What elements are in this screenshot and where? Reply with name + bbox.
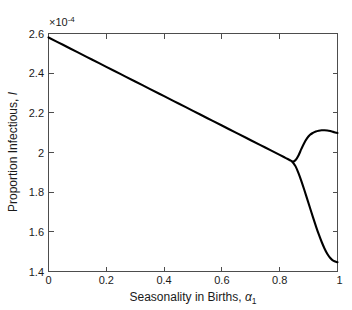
exponent-power: -4 <box>68 15 76 24</box>
x-tick-labels: 0 0.2 0.4 0.6 0.8 1 <box>45 274 342 286</box>
infectious-symbol: I <box>6 91 20 95</box>
y-tick-labels: 1.4 1.6 1.8 2 2.2 2.4 2.6 <box>29 28 44 278</box>
y-tick-label: 2.4 <box>29 67 44 79</box>
x-tick-label: 1 <box>336 274 342 286</box>
plot-canvas: 0 0.2 0.4 0.6 0.8 1 1.4 1.6 1.8 2 2.2 2.… <box>0 0 352 310</box>
svg-text:×10-4: ×10-4 <box>49 15 75 28</box>
x-tick-label: 0.8 <box>272 274 287 286</box>
x-tick-label: 0.2 <box>99 274 114 286</box>
y-axis-title-text: Proportion Infectious, <box>6 95 20 212</box>
y-tick-label: 1.4 <box>29 266 44 278</box>
y-tick-label: 2.6 <box>29 28 44 40</box>
y-tick-label: 2 <box>38 147 44 159</box>
alpha-subscript: 1 <box>252 296 257 306</box>
bifurcation-diagram-figure: 0 0.2 0.4 0.6 0.8 1 1.4 1.6 1.8 2 2.2 2.… <box>0 0 352 310</box>
data-curves-group <box>49 37 338 262</box>
y-tick-label: 1.6 <box>29 226 44 238</box>
y-axis-ticks <box>49 34 338 272</box>
y-axis-exponent-label: ×10-4 <box>49 15 75 28</box>
svg-text:Proportion Infectious, I: Proportion Infectious, I <box>6 91 20 212</box>
y-tick-label: 2.2 <box>29 107 44 119</box>
y-axis-title: Proportion Infectious, I <box>6 91 20 212</box>
y-tick-label: 1.8 <box>29 186 44 198</box>
x-axis-title: Seasonality in Births, α1 <box>130 290 257 306</box>
x-axis-ticks <box>49 34 338 272</box>
x-tick-label: 0.6 <box>214 274 229 286</box>
axis-frame <box>49 34 338 272</box>
x-tick-label: 0.4 <box>156 274 171 286</box>
exponent-mantissa: ×10 <box>49 16 68 28</box>
svg-text:Seasonality in Births, α1: Seasonality in Births, α1 <box>130 290 257 306</box>
x-tick-label: 0 <box>45 274 51 286</box>
data-curve <box>49 37 293 162</box>
data-curve <box>293 162 338 262</box>
data-curve <box>293 130 338 162</box>
x-axis-title-text: Seasonality in Births, <box>130 290 245 304</box>
